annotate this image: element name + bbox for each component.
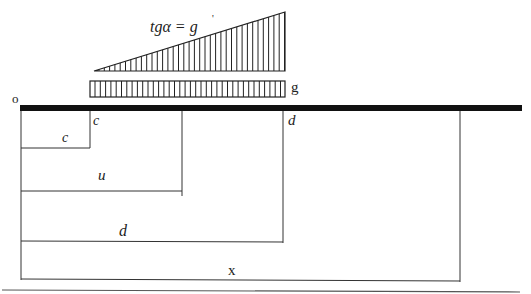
dimension-d: d [119,222,128,239]
beam-load-diagram: tgα = g ' g o c c u d d x [0,0,531,294]
dimension-c: c [62,130,69,145]
dimension-c-top: c [93,113,100,128]
formula-label: tgα = g [150,18,198,36]
formula-prime: ' [212,13,214,24]
dimension-d-top: d [288,112,296,128]
dimension-u: u [98,167,106,183]
distributed-load-label: g [291,79,299,95]
uniform-load [90,81,285,97]
dimension-x: x [228,262,236,278]
dimension-lines [2,111,520,292]
beam [20,105,522,111]
origin-label: o [12,91,19,106]
